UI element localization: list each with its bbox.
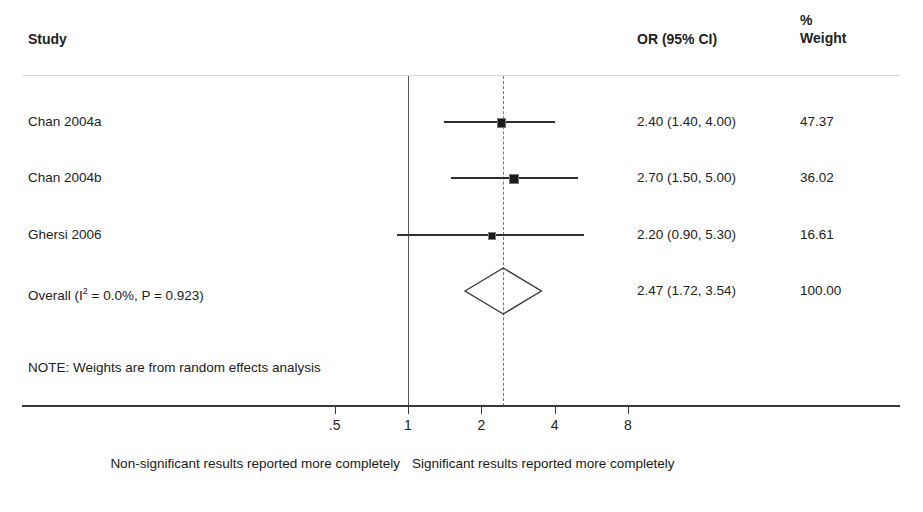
study-label: Ghersi 2006 <box>28 227 102 243</box>
axis-tick <box>481 406 482 414</box>
study-label: Chan 2004b <box>28 170 102 186</box>
weight-value: 47.37 <box>800 114 834 130</box>
axis-tick <box>628 406 629 414</box>
axis-tick <box>408 406 409 414</box>
axis-label-right: Significant results reported more comple… <box>412 455 702 472</box>
or-value: 2.40 (1.40, 4.00) <box>637 114 736 130</box>
effect-size-marker <box>497 118 507 128</box>
axis-tick <box>335 406 336 414</box>
axis-tick-label: .5 <box>315 417 355 433</box>
weight-value: 100.00 <box>800 283 841 299</box>
axis-tick-label: 8 <box>608 417 648 433</box>
axis-tick <box>555 406 556 414</box>
weights-note: NOTE: Weights are from random effects an… <box>28 360 321 376</box>
or-value: 2.70 (1.50, 5.00) <box>637 170 736 186</box>
column-header-or: OR (95% CI) <box>637 31 717 47</box>
summary-diamond <box>463 266 543 316</box>
null-effect-line <box>408 76 409 406</box>
axis-label-left: Non-significant results reported more co… <box>100 455 400 472</box>
study-label: Chan 2004a <box>28 114 102 130</box>
axis-tick-label: 4 <box>535 417 575 433</box>
column-header-percent: % <box>800 12 812 28</box>
header-separator <box>22 75 900 76</box>
column-header-weight: Weight <box>800 30 846 46</box>
forest-plot: Study OR (95% CI) % Weight Chan 2004a2.4… <box>0 0 923 512</box>
or-value: 2.20 (0.90, 5.30) <box>637 227 736 243</box>
weight-value: 16.61 <box>800 227 834 243</box>
column-header-study: Study <box>28 31 67 47</box>
effect-size-marker <box>488 232 496 240</box>
axis-tick-label: 2 <box>461 417 501 433</box>
x-axis-line <box>22 405 900 407</box>
axis-tick-label: 1 <box>388 417 428 433</box>
effect-size-marker <box>509 174 518 183</box>
study-label: Overall (I2 = 0.0%, P = 0.923) <box>28 283 204 304</box>
or-value: 2.47 (1.72, 3.54) <box>637 283 736 299</box>
weight-value: 36.02 <box>800 170 834 186</box>
